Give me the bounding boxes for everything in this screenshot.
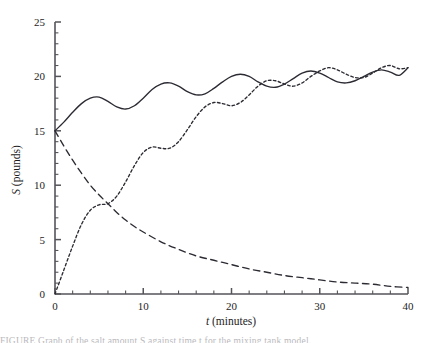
x-tick-label: 0 bbox=[52, 300, 58, 312]
y-tick-label: 15 bbox=[34, 125, 46, 137]
line-chart: 0510152025 010203040 t (minutes) S (poun… bbox=[0, 0, 427, 343]
y-tick-label: 0 bbox=[40, 288, 46, 300]
figure-caption-strip: FIGURE Graph of the salt amount S agains… bbox=[0, 336, 427, 343]
y-tick-label: 10 bbox=[34, 179, 46, 191]
x-tick-label: 10 bbox=[138, 300, 150, 312]
figure-container: 0510152025 010203040 t (minutes) S (poun… bbox=[0, 0, 427, 343]
x-tick-label: 40 bbox=[403, 300, 415, 312]
y-tick-label: 20 bbox=[34, 70, 46, 82]
y-axis-title: S (pounds) bbox=[10, 145, 23, 195]
y-tick-label: 25 bbox=[34, 16, 46, 28]
y-tick-label: 5 bbox=[40, 234, 46, 246]
figure-caption: FIGURE Graph of the salt amount S agains… bbox=[0, 336, 427, 343]
x-tick-label: 30 bbox=[314, 300, 326, 312]
x-axis-title: t (minutes) bbox=[206, 315, 256, 328]
x-tick-label: 20 bbox=[226, 300, 238, 312]
